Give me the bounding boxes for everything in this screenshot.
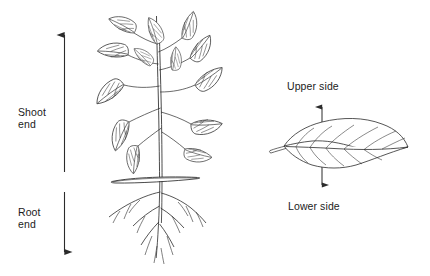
diagram-canvas: [0, 0, 430, 276]
upper-side-label: Upper side: [287, 80, 339, 92]
plant-polarity-figure: Shoot end Root end Upper side Lower side: [0, 0, 430, 276]
whole-plant-drawing: [93, 8, 226, 264]
single-leaf-drawing: [269, 107, 408, 185]
soil-line: [111, 177, 200, 183]
shoot-end-label: Shoot end: [18, 106, 46, 130]
root-system: [109, 181, 206, 264]
root-end-label: Root end: [18, 206, 41, 230]
lower-side-label: Lower side: [288, 200, 340, 212]
leaf-blade: [284, 118, 408, 168]
leaf-petiole: [269, 146, 286, 153]
